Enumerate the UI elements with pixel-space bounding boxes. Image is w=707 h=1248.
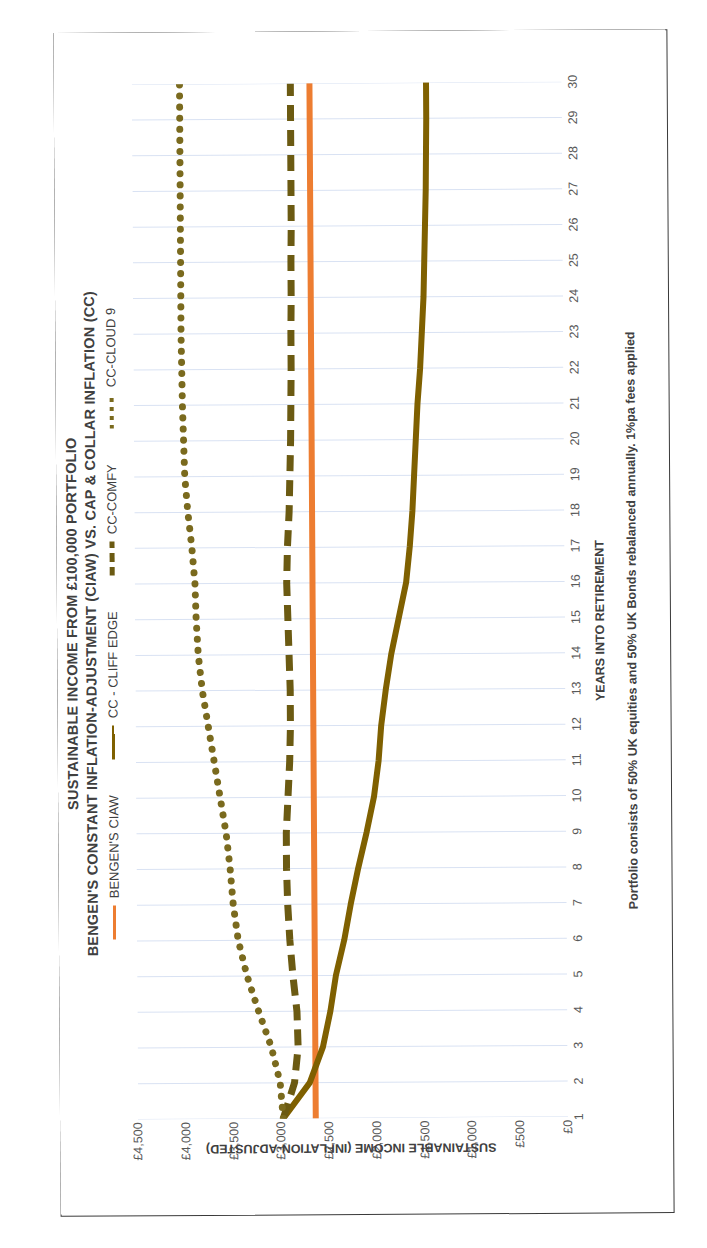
x-axis-tick-label: 15 — [569, 610, 583, 624]
x-axis-tick-label: 28 — [566, 146, 580, 160]
y-axis-title: SUSTAINABLE INCOME (INFLATION-ADJUSTED) — [136, 1140, 566, 1157]
x-axis-tick-label: 25 — [567, 253, 581, 267]
page-canvas: SUSTAINABLE INCOME FROM £100,000 PORTFOL… — [0, 0, 707, 1248]
x-axis-tick-label: 11 — [570, 753, 584, 766]
x-axis-tick-label: 14 — [569, 646, 583, 660]
legend-label: BENGEN'S CIAW — [106, 795, 122, 898]
x-axis-tick-label: 1 — [572, 1113, 586, 1120]
legend-label: CC-CLOUD 9 — [103, 308, 118, 388]
x-axis-tick-label: 30 — [566, 75, 580, 89]
legend-item-cc-comfy[interactable]: CC-COMFY — [104, 464, 120, 575]
x-axis-tick-label: 22 — [567, 360, 581, 374]
x-axis-tick-label: 23 — [567, 325, 581, 339]
legend-swatch-dotted-line-icon — [106, 394, 117, 428]
x-axis-tick-labels: 1234567891011121314151617181920212223242… — [566, 82, 590, 1117]
x-axis-tick-label: 7 — [571, 899, 585, 906]
x-axis-tick-label: 24 — [567, 289, 581, 303]
x-axis-tick-label: 9 — [570, 828, 584, 835]
chart-figure: SUSTAINABLE INCOME FROM £100,000 PORTFOL… — [53, 29, 672, 1215]
legend-item-cc-cliff-edge[interactable]: CC - CLIFF EDGE — [105, 611, 121, 759]
y-axis-tick-labels: £4,500£4,000£3,500£3,000£2,500£2,000£1,5… — [132, 82, 568, 1120]
x-axis-tick-label: 13 — [569, 681, 583, 695]
chart-legend: BENGEN'S CIAW CC - CLIFF EDGE CC-COMFY C… — [101, 32, 123, 1214]
chart-footnote: Portfolio consists of 50% UK equities an… — [621, 29, 642, 1211]
x-axis-tick-label: 4 — [571, 1006, 585, 1013]
x-axis-tick-label: 18 — [568, 503, 582, 517]
x-axis-tick-label: 10 — [570, 788, 584, 802]
legend-item-bengen-ciaw[interactable]: BENGEN'S CIAW — [106, 795, 122, 939]
x-axis-tick-label: 3 — [572, 1042, 586, 1049]
x-axis-tick-label: 19 — [568, 467, 582, 481]
y-axis-tick-label: £0 — [561, 1120, 575, 1134]
x-axis-tick-label: 5 — [571, 970, 585, 977]
x-axis-title: YEARS INTO RETIREMENT — [589, 30, 610, 1212]
legend-swatch-solid-line-icon — [109, 905, 120, 939]
x-axis-tick-label: 17 — [568, 539, 582, 553]
x-axis-tick-label: 29 — [566, 110, 580, 124]
legend-label: CC - CLIFF EDGE — [105, 611, 121, 718]
x-axis-tick-label: 26 — [567, 217, 581, 231]
legend-swatch-solid-line-icon — [108, 725, 119, 759]
x-axis-tick-label: 6 — [571, 935, 585, 942]
legend-item-cc-cloud-9[interactable]: CC-CLOUD 9 — [103, 308, 119, 429]
x-axis-tick-label: 2 — [572, 1077, 586, 1084]
x-axis-tick-label: 21 — [568, 396, 582, 410]
x-axis-tick-label: 16 — [569, 574, 583, 588]
chart-title: SUSTAINABLE INCOME FROM £100,000 PORTFOL… — [59, 33, 104, 1215]
legend-label: CC-COMFY — [104, 464, 119, 534]
x-axis-tick-label: 27 — [566, 182, 580, 196]
x-axis-tick-label: 20 — [568, 432, 582, 446]
rotated-chart-container: SUSTAINABLE INCOME FROM £100,000 PORTFOL… — [53, 29, 672, 1215]
x-axis-tick-label: 12 — [570, 717, 584, 731]
legend-swatch-dashed-line-icon — [107, 541, 118, 575]
x-axis-tick-label: 8 — [570, 863, 584, 870]
